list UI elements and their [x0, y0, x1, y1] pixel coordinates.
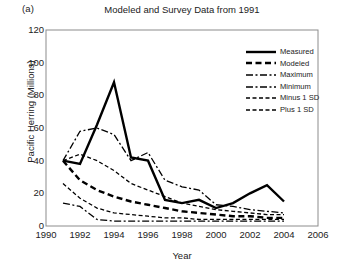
legend: MeasuredModeledMaximumMinimumMinus 1 SDP… — [246, 46, 319, 116]
legend-swatch-icon — [246, 47, 276, 57]
series-line-modeled — [63, 161, 284, 218]
legend-label: Modeled — [280, 60, 309, 68]
figure: (a) Modeled and Survey Data from 1991 Pa… — [0, 0, 357, 276]
legend-label: Minimum — [280, 83, 311, 91]
legend-item-plus-1-sd[interactable]: Plus 1 SD — [246, 104, 319, 116]
legend-item-maximum[interactable]: Maximum — [246, 69, 319, 81]
plot-area — [0, 0, 357, 276]
series-line-plus-1-sd — [63, 154, 284, 214]
legend-item-minus-1-sd[interactable]: Minus 1 SD — [246, 92, 319, 104]
legend-label: Minus 1 SD — [280, 94, 319, 102]
legend-label: Plus 1 SD — [280, 106, 314, 114]
legend-label: Maximum — [280, 71, 313, 79]
legend-swatch-icon — [246, 70, 276, 80]
legend-item-minimum[interactable]: Minimum — [246, 81, 319, 93]
legend-item-measured[interactable]: Measured — [246, 46, 319, 58]
legend-item-modeled[interactable]: Modeled — [246, 58, 319, 70]
legend-swatch-icon — [246, 105, 276, 115]
legend-swatch-icon — [246, 82, 276, 92]
legend-swatch-icon — [246, 93, 276, 103]
legend-label: Measured — [280, 48, 314, 56]
series-line-maximum — [63, 128, 284, 213]
legend-swatch-icon — [246, 58, 276, 68]
